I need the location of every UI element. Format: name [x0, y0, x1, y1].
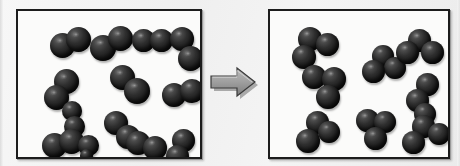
atom-sphere [108, 26, 133, 51]
figure-canvas [0, 0, 460, 166]
scan-edge-left [0, 0, 3, 166]
atom-sphere [66, 27, 91, 52]
atom-sphere [124, 78, 150, 104]
atom-sphere [402, 131, 425, 154]
atom-sphere [180, 79, 202, 103]
atom-sphere [296, 129, 320, 153]
reactants-molecule-field [18, 11, 200, 157]
atom-sphere [316, 85, 340, 109]
atom-sphere [143, 136, 167, 159]
atom-sphere [316, 33, 339, 56]
atom-sphere [362, 60, 385, 83]
right-arrow-icon [208, 63, 260, 101]
atom-sphere [421, 41, 444, 64]
products-molecule-field [270, 11, 448, 157]
atom-sphere [178, 46, 202, 71]
reactants-panel [16, 9, 202, 159]
atom-sphere [364, 127, 387, 150]
atom-sphere [80, 149, 93, 159]
atom-sphere [428, 123, 450, 145]
products-panel [268, 9, 450, 159]
atom-sphere [396, 41, 419, 64]
atom-sphere [318, 121, 340, 143]
